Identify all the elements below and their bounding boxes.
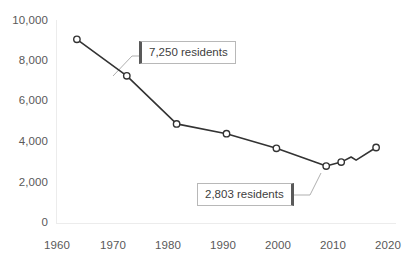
data-point-2000	[273, 145, 279, 151]
annotation-callout-2010-text: 2,803 residents	[198, 189, 291, 201]
xtick-label-1980: 1980	[140, 239, 196, 251]
data-point-2010	[323, 163, 329, 169]
ytick-label-4000: 4,000	[2, 135, 48, 147]
data-point-1960	[74, 36, 80, 42]
xtick-label-1970: 1970	[85, 239, 141, 251]
ytick-label-0: 0	[2, 216, 48, 228]
line-chart: 10,000 8,000 6,000 4,000 2,000 0 1960 19…	[0, 0, 403, 270]
ytick-label-6000: 6,000	[2, 94, 48, 106]
annotation-callout-1970-text: 7,250 residents	[142, 47, 235, 59]
ytick-label-8000: 8,000	[2, 54, 48, 66]
xtick-label-2000: 2000	[250, 239, 306, 251]
xtick-label-2010: 2010	[305, 239, 361, 251]
xtick-label-1960: 1960	[29, 239, 85, 251]
ytick-label-10000: 10,000	[2, 14, 48, 26]
xtick-label-1990: 1990	[195, 239, 251, 251]
data-point-2013	[338, 159, 344, 165]
data-point-1970	[124, 73, 130, 79]
data-point-2020	[373, 144, 379, 150]
annotation-callout-2010: 2,803 residents	[197, 183, 294, 206]
data-point-1980	[173, 121, 179, 127]
annotation-callout-1970: 7,250 residents	[139, 41, 236, 64]
ytick-label-2000: 2,000	[2, 176, 48, 188]
data-point-1990	[223, 131, 229, 137]
xtick-label-2020: 2020	[360, 239, 403, 251]
